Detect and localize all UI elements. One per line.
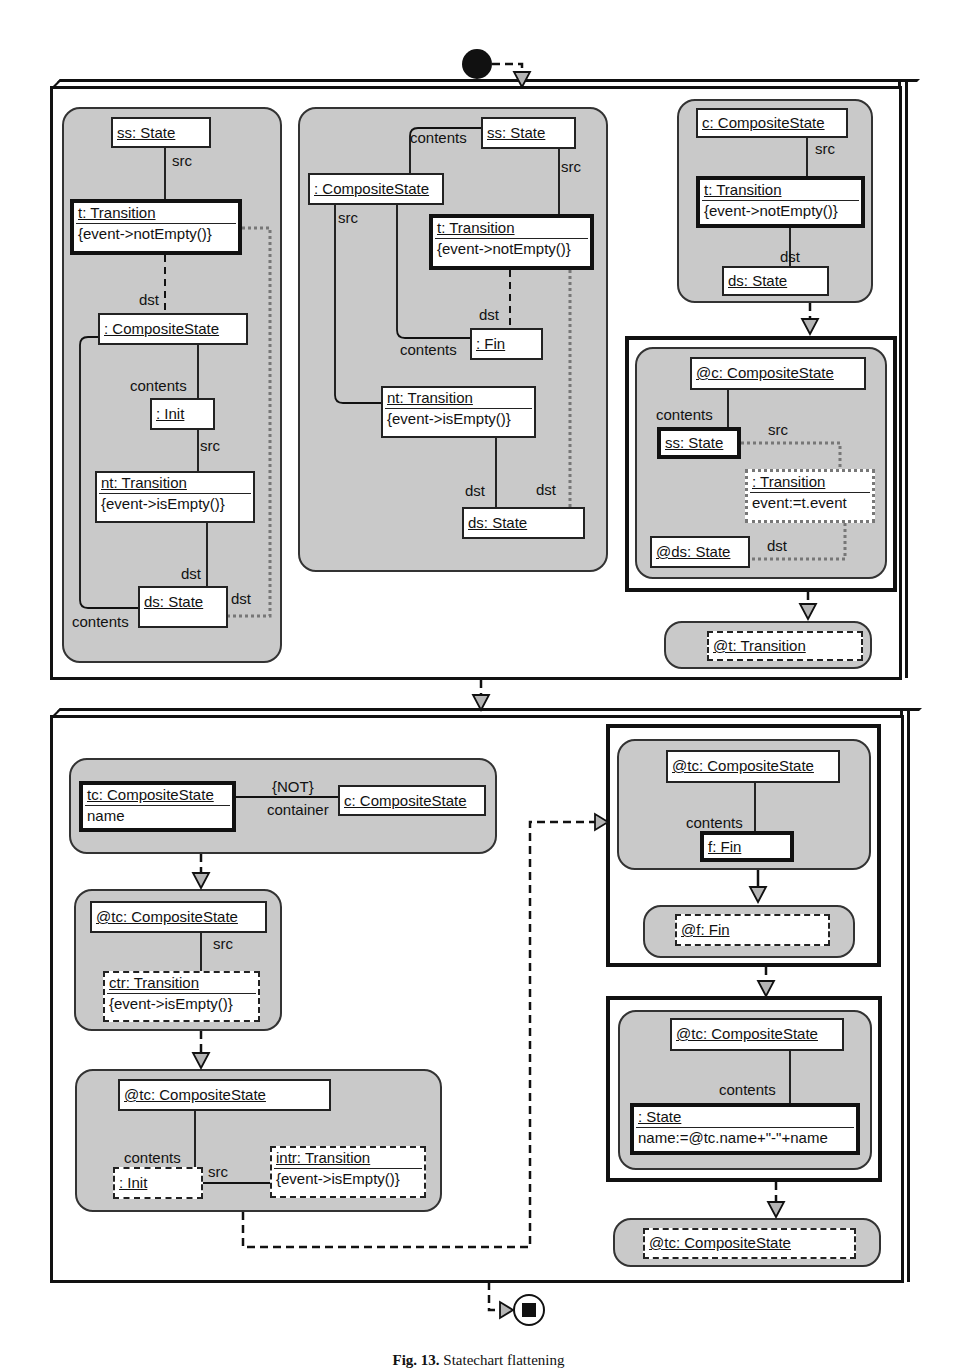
link-label-contents: contents [656, 406, 713, 424]
object-init[interactable]: : Init [150, 398, 215, 430]
link-label-contents: contents [400, 341, 457, 359]
object-name: @t: Transition [713, 636, 857, 656]
caption-text: Statechart flattening [443, 1352, 564, 1368]
object-name: ss: State [487, 123, 570, 143]
object-fin[interactable]: : Fin [470, 328, 543, 360]
object-name: intr: Transition [276, 1148, 420, 1168]
object-ss-state[interactable]: ss: State [111, 117, 211, 148]
link-label-src: src [213, 935, 233, 953]
object-at-tc-composite-state[interactable]: @tc: CompositeState [118, 1079, 331, 1111]
object-name: : State [638, 1107, 852, 1127]
link-label-dst: dst [465, 482, 485, 500]
object-name: ds: State [468, 513, 579, 533]
link-label-src: src [768, 421, 788, 439]
object-delete-tc-composite-state[interactable]: @tc: CompositeState [643, 1228, 856, 1259]
object-t-transition[interactable]: t: Transition {event->notEmpty()} [429, 214, 594, 270]
link-label-src: src [200, 437, 220, 455]
object-name: @tc: CompositeState [96, 907, 261, 927]
link-label-src: src [815, 140, 835, 158]
object-init[interactable]: : Init [113, 1167, 203, 1199]
link-label-contents: contents [686, 814, 743, 832]
object-delete-f-fin[interactable]: @f: Fin [675, 914, 830, 946]
link-label-src: src [172, 152, 192, 170]
object-name: nt: Transition [101, 473, 249, 493]
link-label-dst: dst [181, 565, 201, 583]
link-label-dst: dst [780, 248, 800, 266]
object-new-state[interactable]: : State name:=@tc.name+"-"+name [630, 1103, 860, 1155]
object-name: @f: Fin [681, 920, 824, 940]
object-name: : Fin [476, 334, 537, 354]
figure-caption: Fig. 13. Statechart flattening [0, 1352, 957, 1369]
object-at-c-composite-state[interactable]: @c: CompositeState [690, 357, 866, 390]
object-at-tc-composite-state[interactable]: @tc: CompositeState [90, 901, 267, 933]
object-ctr-transition[interactable]: ctr: Transition {event->isEmpty()} [103, 971, 260, 1022]
object-name: : Init [156, 404, 209, 424]
final-node-icon [514, 1295, 544, 1325]
object-name: : Init [119, 1173, 197, 1193]
object-attribute: name [85, 805, 230, 826]
object-new-transition[interactable]: : Transition event:=t.event [745, 469, 875, 523]
object-constraint: {event->isEmpty()} [274, 1168, 422, 1189]
link-label-dst: dst [536, 481, 556, 499]
object-name: tc: CompositeState [87, 785, 228, 805]
object-ss-state[interactable]: ss: State [657, 427, 741, 459]
object-ss-state[interactable]: ss: State [481, 117, 576, 149]
object-name: : CompositeState [104, 319, 242, 339]
link-label-contents: contents [719, 1081, 776, 1099]
link-label-contents: contents [124, 1149, 181, 1167]
object-name: ss: State [117, 123, 205, 143]
link-label-dst: dst [231, 590, 251, 608]
object-f-fin[interactable]: f: Fin [700, 831, 794, 862]
object-name: c: CompositeState [344, 791, 480, 811]
link-label-dst: dst [767, 537, 787, 555]
object-composite-state[interactable]: : CompositeState [308, 173, 444, 205]
caption-label: Fig. 13. [392, 1352, 439, 1368]
object-attribute: name:=@tc.name+"-"+name [636, 1127, 854, 1148]
object-constraint: {event->isEmpty()} [99, 493, 251, 514]
object-nt-transition[interactable]: nt: Transition {event->isEmpty()} [95, 471, 255, 523]
object-constraint: {event->notEmpty()} [76, 223, 236, 244]
object-name: t: Transition [704, 180, 857, 200]
object-name: ctr: Transition [109, 973, 254, 993]
object-t-transition[interactable]: t: Transition {event->notEmpty()} [696, 176, 865, 228]
object-attribute: event:=t.event [750, 492, 870, 513]
object-composite-state[interactable]: : CompositeState [98, 313, 248, 345]
object-c-composite-state[interactable]: c: CompositeState [696, 108, 848, 138]
object-delete-t-transition[interactable]: @t: Transition [707, 631, 863, 661]
object-intr-transition[interactable]: intr: Transition {event->isEmpty()} [270, 1146, 426, 1198]
initial-node-icon [462, 49, 492, 79]
object-at-tc-composite-state[interactable]: @tc: CompositeState [666, 750, 840, 783]
object-name: @tc: CompositeState [124, 1085, 325, 1105]
object-name: ds: State [728, 271, 823, 291]
object-c-composite-state[interactable]: c: CompositeState [338, 785, 486, 816]
link-label-contents: contents [72, 613, 129, 631]
object-name: @tc: CompositeState [676, 1024, 838, 1044]
object-tc-composite-state[interactable]: tc: CompositeState name [79, 781, 236, 832]
object-name: t: Transition [437, 218, 586, 238]
link-label-src: src [208, 1163, 228, 1181]
link-label-not: {NOT} [272, 778, 314, 796]
object-at-ds-state[interactable]: @ds: State [650, 536, 750, 568]
object-constraint: {event->isEmpty()} [107, 993, 256, 1014]
object-name: c: CompositeState [702, 113, 842, 133]
object-name: : CompositeState [314, 179, 438, 199]
link-label-src: src [338, 209, 358, 227]
object-name: @tc: CompositeState [649, 1233, 850, 1253]
object-ds-state[interactable]: ds: State [138, 586, 228, 628]
link-label-contents: contents [130, 377, 187, 395]
object-name: nt: Transition [387, 388, 530, 408]
object-t-transition[interactable]: t: Transition {event->notEmpty()} [70, 199, 242, 255]
object-name: @tc: CompositeState [672, 756, 834, 776]
object-at-tc-composite-state[interactable]: @tc: CompositeState [670, 1018, 844, 1051]
link-label-contents: contents [410, 129, 467, 147]
object-ds-state[interactable]: ds: State [462, 507, 585, 539]
object-name: @ds: State [656, 542, 744, 562]
object-name: ss: State [665, 433, 733, 453]
link-label-dst: dst [139, 291, 159, 309]
link-label-container: container [267, 801, 329, 819]
object-name: f: Fin [708, 837, 786, 857]
object-constraint: {event->notEmpty()} [702, 200, 859, 221]
object-nt-transition[interactable]: nt: Transition {event->isEmpty()} [381, 386, 536, 438]
link-label-dst: dst [479, 306, 499, 324]
object-ds-state[interactable]: ds: State [722, 266, 829, 296]
